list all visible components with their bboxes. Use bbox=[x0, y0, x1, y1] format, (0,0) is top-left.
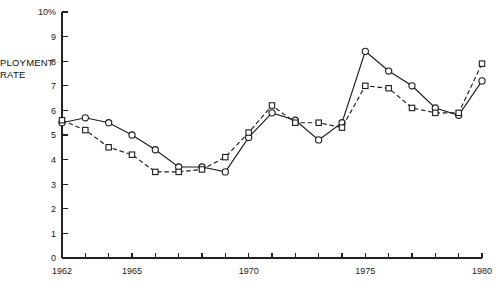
x-tick-label-1965: 1965 bbox=[122, 266, 142, 276]
x-tick-label-1962: 1962 bbox=[52, 266, 72, 276]
data-point-circle-series-1975 bbox=[362, 48, 368, 54]
y-tick-label-0: 0 bbox=[51, 253, 56, 263]
data-point-square-series-1962 bbox=[59, 118, 64, 123]
y-axis-title-line-2: RATE bbox=[0, 69, 25, 80]
data-point-square-series-1969 bbox=[223, 154, 228, 159]
data-point-square-series-1974 bbox=[339, 125, 344, 130]
data-point-circle-series-1965 bbox=[129, 132, 135, 138]
series-circle-series bbox=[59, 48, 485, 175]
data-point-circle-series-1973 bbox=[316, 137, 322, 143]
data-point-square-series-1978 bbox=[433, 110, 438, 115]
y-tick-label-4: 4 bbox=[51, 155, 56, 165]
x-tick-label-1975: 1975 bbox=[355, 266, 375, 276]
data-point-circle-series-1966 bbox=[152, 147, 158, 153]
y-tick-label-6: 6 bbox=[51, 106, 56, 116]
y-tick-label-1: 1 bbox=[51, 229, 56, 239]
x-tick-label-1970: 1970 bbox=[239, 266, 259, 276]
data-point-circle-series-1980 bbox=[479, 78, 485, 84]
data-point-circle-series-1963 bbox=[82, 115, 88, 121]
y-tick-label-10: 10% bbox=[38, 7, 56, 17]
data-point-square-series-1968 bbox=[199, 167, 204, 172]
data-point-square-series-1980 bbox=[479, 61, 484, 66]
data-point-square-series-1967 bbox=[176, 169, 181, 174]
y-axis-title: PLOYMENT RATE bbox=[0, 57, 54, 80]
data-point-circle-series-1977 bbox=[409, 83, 415, 89]
y-axis-title-line-1: PLOYMENT bbox=[0, 57, 54, 68]
x-axis: 19621965197019751980 bbox=[52, 253, 492, 276]
y-tick-label-9: 9 bbox=[51, 32, 56, 42]
data-point-circle-series-1969 bbox=[222, 169, 228, 175]
x-axis-tick-labels: 19621965197019751980 bbox=[52, 266, 492, 276]
series-line-square-series bbox=[62, 64, 482, 172]
data-point-square-series-1970 bbox=[246, 130, 251, 135]
data-point-square-series-1971 bbox=[269, 103, 274, 108]
y-tick-label-3: 3 bbox=[51, 180, 56, 190]
y-axis-ticks bbox=[62, 12, 68, 258]
data-point-square-series-1964 bbox=[106, 145, 111, 150]
data-point-square-series-1975 bbox=[363, 83, 368, 88]
y-axis: 10%9876543210 bbox=[38, 7, 68, 263]
data-point-circle-series-1976 bbox=[386, 68, 392, 74]
data-point-square-series-1976 bbox=[386, 86, 391, 91]
data-point-square-series-1966 bbox=[153, 169, 158, 174]
series-square-series bbox=[59, 61, 484, 175]
data-point-square-series-1965 bbox=[129, 152, 134, 157]
data-point-square-series-1963 bbox=[83, 127, 88, 132]
data-point-circle-series-1971 bbox=[269, 110, 275, 116]
data-point-square-series-1973 bbox=[316, 120, 321, 125]
x-tick-label-1980: 1980 bbox=[472, 266, 492, 276]
data-point-square-series-1977 bbox=[409, 105, 414, 110]
y-axis-tick-labels: 10%9876543210 bbox=[38, 7, 56, 263]
data-point-square-series-1972 bbox=[293, 120, 298, 125]
y-tick-label-7: 7 bbox=[51, 81, 56, 91]
data-point-square-series-1979 bbox=[456, 110, 461, 115]
unemployment-rate-line-chart: 10%9876543210 19621965197019751980 PLOYM… bbox=[0, 0, 497, 287]
chart-container: 10%9876543210 19621965197019751980 PLOYM… bbox=[0, 0, 497, 287]
y-tick-label-2: 2 bbox=[51, 204, 56, 214]
data-point-circle-series-1964 bbox=[106, 120, 112, 126]
x-axis-ticks bbox=[62, 253, 482, 258]
data-series-group bbox=[59, 48, 485, 175]
y-tick-label-5: 5 bbox=[51, 130, 56, 140]
